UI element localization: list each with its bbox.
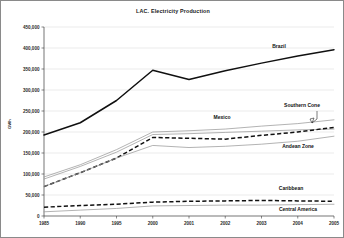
x-tick-label: 2003: [256, 221, 267, 226]
series-line-mexico: [44, 129, 334, 179]
y-tick-label: 50,000: [25, 193, 39, 198]
y-tick-label: 0: [37, 214, 40, 219]
series-line-brazil: [44, 50, 334, 135]
series-label-brazil: Brazil: [272, 43, 286, 49]
x-tick-label: 2005: [329, 221, 340, 226]
series-label-central-america: Central America: [279, 206, 317, 212]
series-label-mexico: Mexico: [214, 114, 231, 120]
series-annotations-group: BrazilSouthern ConeMexicoAndean ZoneCari…: [214, 43, 321, 212]
x-tick-label: 2000: [148, 221, 159, 226]
y-tick-label: 250,000: [23, 109, 40, 114]
chart-plot: 450,000400,000350,000300,000250,000200,0…: [1, 1, 344, 238]
x-tick-label: 2002: [220, 221, 231, 226]
y-tick-label: 100,000: [23, 172, 40, 177]
series-label-caribbean: Caribbean: [279, 185, 303, 191]
x-tick-label: 1985: [39, 221, 50, 226]
x-tick-label: 2004: [293, 221, 304, 226]
y-tick-label: 400,000: [23, 46, 40, 51]
series-label-southern-cone: Southern Cone: [284, 102, 320, 108]
y-tick-label: 350,000: [23, 67, 40, 72]
y-axis-tick-labels: 450,000400,000350,000300,000250,000200,0…: [23, 25, 40, 219]
chart-container: LAC. Electricity Production 450,000400,0…: [0, 0, 344, 238]
y-axis-title: GWh: [7, 119, 12, 129]
y-tick-label: 200,000: [23, 130, 40, 135]
x-tick-label: 1990: [75, 221, 86, 226]
y-tick-label: 450,000: [23, 25, 40, 30]
x-tick-label: 1995: [111, 221, 122, 226]
series-label-andean-zone: Andean Zone: [282, 143, 314, 149]
x-axis-tick-labels: 198519901995200020012002200320042005: [39, 221, 340, 226]
y-tick-label: 300,000: [23, 88, 40, 93]
y-tick-label: 150,000: [23, 151, 40, 156]
series-line-andean-zone: [44, 127, 334, 186]
x-tick-label: 2001: [184, 221, 195, 226]
